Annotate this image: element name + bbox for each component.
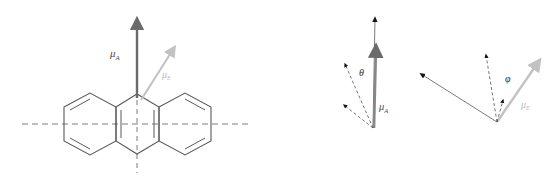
label-theta: θ xyxy=(359,67,364,78)
double-bond-left-lower xyxy=(70,138,90,149)
panel-right-angles: θ μA φ μE xyxy=(344,18,539,128)
theta-cluster: θ μA xyxy=(344,18,388,128)
phi-dashed-upper xyxy=(486,55,497,122)
panel-left-anthracene: μA μE xyxy=(22,20,252,173)
ring-left xyxy=(64,93,116,155)
double-bond-right-lower xyxy=(185,138,205,149)
figure-root: μA μE θ μA xyxy=(0,0,556,192)
label-mu-a-left: μA xyxy=(109,47,121,61)
label-mu-e-right: μE xyxy=(520,99,530,111)
theta-dashed-lower xyxy=(344,105,373,128)
double-bond-left-upper xyxy=(70,99,90,110)
phi-long-arrow xyxy=(421,74,497,122)
phi-gray-arrow xyxy=(497,61,539,122)
transition-dipole-figure: μA μE θ μA xyxy=(0,0,556,192)
label-mu-a-right: μA xyxy=(378,101,388,114)
phi-cluster: φ μE xyxy=(421,55,539,122)
label-mu-e-left: μE xyxy=(161,69,171,81)
double-bond-right-upper xyxy=(185,99,205,110)
label-phi: φ xyxy=(505,73,511,84)
